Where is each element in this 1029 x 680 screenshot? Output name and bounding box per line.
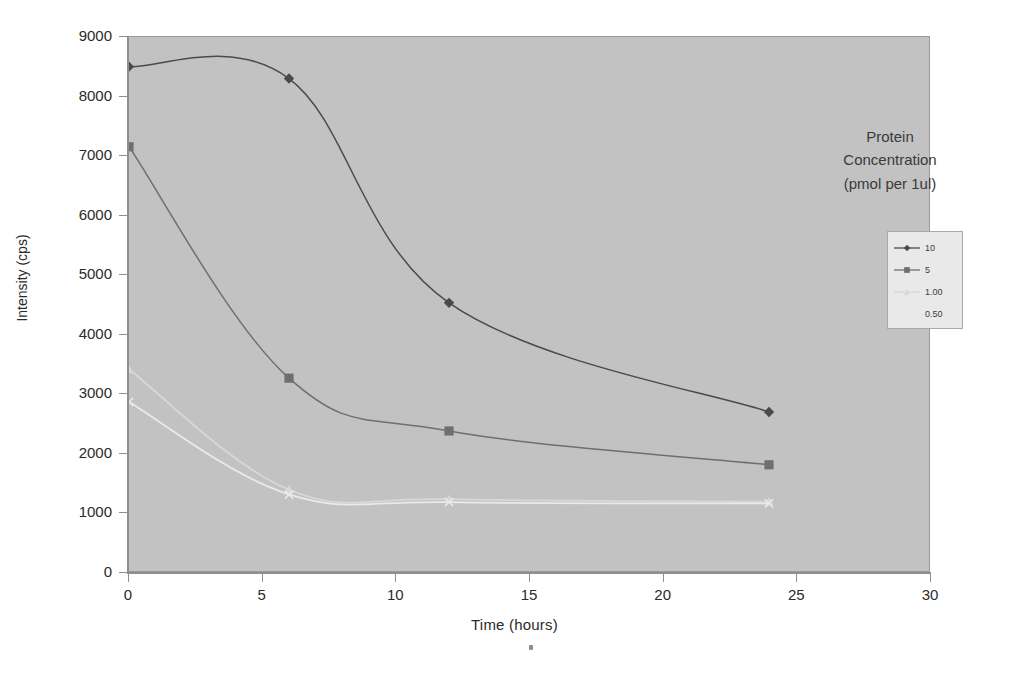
y-tick-label-wrap: 6000 <box>52 215 112 216</box>
y-tick-mark <box>119 453 127 454</box>
y-tick-mark <box>119 274 127 275</box>
x-tick-mark <box>663 574 664 582</box>
y-tick-label-wrap: 7000 <box>52 155 112 156</box>
y-tick-mark <box>119 512 127 513</box>
legend-entry-5: 5 <box>892 259 958 281</box>
x-tick-mark <box>796 574 797 582</box>
legend-label: 10 <box>925 244 935 253</box>
y-tick-label-wrap: 5000 <box>52 274 112 275</box>
x-tick-label: 5 <box>237 586 287 603</box>
legend-title: Protein Concentration (pmol per 1ul) <box>790 125 990 195</box>
series-line-10 <box>129 56 769 412</box>
legend-marker-icon <box>892 307 922 321</box>
y-tick-label: 5000 <box>54 266 112 281</box>
legend-title-line-3: (pmol per 1ul) <box>790 172 990 195</box>
legend-entry-10: 10 <box>892 237 958 259</box>
x-tick-label: 10 <box>370 586 420 603</box>
y-tick-mark <box>119 215 127 216</box>
x-tick-mark <box>262 574 263 582</box>
legend-entry-1.00: 1.00 <box>892 281 958 303</box>
data-point-marker <box>129 142 134 151</box>
series-line-0.50 <box>129 402 769 505</box>
legend-marker-icon <box>892 285 922 299</box>
y-tick-label: 2000 <box>54 445 112 460</box>
y-tick-label: 3000 <box>54 385 112 400</box>
data-point-marker <box>764 460 773 469</box>
chart-figure: 0100020003000400050006000700080009000 05… <box>0 0 1029 680</box>
legend-entry-0.50: 0.50 <box>892 303 958 325</box>
legend-marker-icon <box>892 263 922 277</box>
series-0.50 <box>129 398 773 508</box>
y-tick-label-wrap: 2000 <box>52 453 112 454</box>
x-tick-mark <box>128 574 129 582</box>
y-tick-label: 9000 <box>54 28 112 43</box>
series-line-1.00 <box>129 369 769 502</box>
y-tick-label-wrap: 4000 <box>52 334 112 335</box>
data-point-marker <box>284 374 293 383</box>
series-5 <box>129 142 774 469</box>
x-axis-title-text: Time (hours) <box>471 616 558 633</box>
y-tick-mark <box>119 572 127 573</box>
x-tick-mark <box>395 574 396 582</box>
x-tick-label: 20 <box>638 586 688 603</box>
plot-area <box>128 36 930 572</box>
y-tick-label-wrap: 0 <box>52 572 112 573</box>
y-tick-label: 7000 <box>54 147 112 162</box>
data-point-marker <box>444 426 453 435</box>
legend-label: 1.00 <box>925 288 943 297</box>
y-tick-mark <box>119 393 127 394</box>
legend-title-line-1: Protein <box>790 125 990 148</box>
y-axis-line <box>127 36 129 573</box>
data-point-marker <box>284 485 293 494</box>
x-tick-label: 25 <box>771 586 821 603</box>
y-tick-label-wrap: 1000 <box>52 512 112 513</box>
data-point-marker <box>129 365 134 374</box>
x-tick-label: 0 <box>103 586 153 603</box>
x-tick-mark <box>529 574 530 582</box>
y-tick-mark <box>119 334 127 335</box>
data-point-marker <box>129 398 133 406</box>
y-tick-label: 8000 <box>54 88 112 103</box>
y-tick-label: 1000 <box>54 504 112 519</box>
legend-label: 0.50 <box>925 310 943 319</box>
y-axis-title: Intensity (cps) <box>14 198 30 358</box>
y-tick-label-wrap: 9000 <box>52 36 112 37</box>
y-tick-mark <box>119 155 127 156</box>
y-tick-label: 4000 <box>54 326 112 341</box>
y-tick-label-wrap: 8000 <box>52 96 112 97</box>
legend-title-line-2: Concentration <box>790 148 990 171</box>
x-tick-label: 15 <box>504 586 554 603</box>
y-tick-mark <box>119 96 127 97</box>
legend-box: 1051.000.50 <box>887 231 963 329</box>
stray-speck <box>529 645 533 650</box>
y-tick-label: 0 <box>54 564 112 579</box>
legend-label: 5 <box>925 266 930 275</box>
series-10 <box>129 56 774 417</box>
y-tick-mark <box>119 36 127 37</box>
x-tick-mark <box>930 574 931 582</box>
y-tick-label: 6000 <box>54 207 112 222</box>
legend-marker-icon <box>892 241 922 255</box>
y-tick-label-wrap: 3000 <box>52 393 112 394</box>
data-point-marker <box>444 298 454 308</box>
x-axis-title: Time (hours) <box>0 616 1029 633</box>
plot-series-svg <box>129 37 929 571</box>
x-tick-label: 30 <box>905 586 955 603</box>
data-point-marker <box>129 61 134 71</box>
data-point-marker <box>764 407 774 417</box>
